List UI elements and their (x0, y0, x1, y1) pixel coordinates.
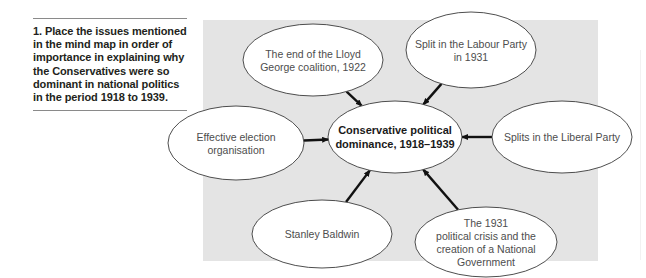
mind-map: The end of the LloydGeorge coalition, 19… (0, 0, 646, 278)
arrow-lloyd-george-to-central (347, 92, 362, 106)
liberal-splits-label-line: Splits in the Liberal Party (504, 131, 621, 143)
central-label-line: Conservative political (338, 124, 452, 136)
arrow-stanley-baldwin-to-central (346, 170, 370, 202)
labour-split-label-line: in 1931 (454, 51, 489, 63)
arrow-labour-split-to-central (423, 84, 441, 105)
lloyd-george-label-line: George coalition, 1922 (260, 61, 366, 73)
crisis-1931-label-line: The 1931 (464, 217, 509, 229)
crisis-1931-label-line: political crisis and the (436, 230, 536, 242)
stanley-baldwin-label-line: Stanley Baldwin (285, 228, 360, 240)
nodes-layer: The end of the LloydGeorge coalition, 19… (168, 12, 632, 277)
crisis-1931-label-line: creation of a National (436, 243, 535, 255)
crisis-1931-label-line: Government (457, 256, 515, 268)
node-labour-split: Split in the Labour Partyin 1931 (406, 12, 536, 88)
central-node: Conservative politicaldominance, 1918–19… (328, 101, 462, 173)
central-ellipse (328, 101, 462, 173)
node-crisis-1931: The 1931political crisis and thecreation… (415, 207, 557, 277)
node-lloyd-george: The end of the LloydGeorge coalition, 19… (243, 24, 383, 96)
arrow-crisis-1931-to-central (423, 170, 458, 210)
election-organisation-label-line: Effective election (196, 131, 275, 143)
lloyd-george-label-line: The end of the Lloyd (265, 48, 361, 60)
election-organisation-label-line: organisation (207, 144, 264, 156)
arrow-election-organisation-to-central (304, 140, 328, 141)
central-label-line: dominance, 1918–1939 (335, 138, 454, 150)
labour-split-label-line: Split in the Labour Party (415, 38, 528, 50)
node-liberal-splits: Splits in the Liberal Party (492, 101, 632, 173)
node-election-organisation: Effective electionorganisation (168, 106, 304, 180)
node-stanley-baldwin: Stanley Baldwin (252, 200, 392, 268)
